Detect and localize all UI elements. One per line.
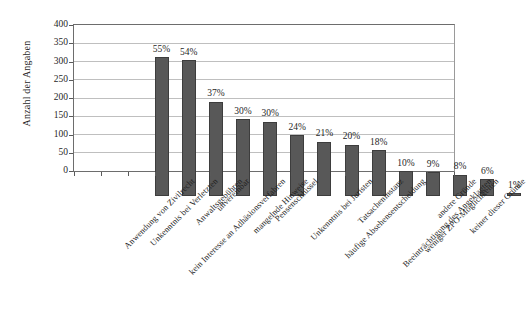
gridline [74, 43, 454, 44]
bar-value-label: 30% [261, 109, 278, 119]
bar-slot: 30% [229, 50, 256, 196]
y-tick-label: 100 [28, 130, 68, 140]
bar-value-label: 37% [207, 89, 224, 99]
bar-value-label: 24% [289, 123, 306, 133]
y-tick-label: 250 [28, 75, 68, 85]
bar-value-label: 20% [343, 132, 360, 142]
bar-slot: 6% [474, 50, 501, 196]
y-tick-label: 150 [28, 111, 68, 121]
bar-slot: 55% [148, 50, 175, 196]
bar-value-label: 30% [234, 107, 251, 117]
y-tick-label: 400 [28, 20, 68, 30]
y-tick-label: 200 [28, 93, 68, 103]
bar-slot: 8% [447, 50, 474, 196]
y-tick-label: 300 [28, 57, 68, 67]
bar-value-label: 8% [454, 162, 467, 172]
bar-slot: 24% [284, 50, 311, 196]
bar-value-label: 9% [427, 160, 440, 170]
bar-slot: 18% [365, 50, 392, 196]
bar-value-label: 55% [153, 45, 170, 55]
y-tick-label: 350 [28, 38, 68, 48]
bar-slot: 20% [338, 50, 365, 196]
y-tick-label: 0 [28, 166, 68, 176]
bar-slot: 10% [392, 50, 419, 196]
bar-value-label: 10% [397, 159, 414, 169]
plot-area: 55%54%37%30%30%24%21%20%18%10%9%8%6%1% [73, 24, 455, 172]
bar-value-label: 54% [180, 48, 197, 58]
bar-value-label: 21% [316, 129, 333, 139]
bar-slot: 21% [311, 50, 338, 196]
bar-slot: 30% [257, 50, 284, 196]
bar-slot: 1% [501, 50, 528, 196]
bar-slot: 37% [202, 50, 229, 196]
y-tick-label: 50 [28, 148, 68, 158]
bar-value-label: 18% [370, 138, 387, 148]
bar-slot: 54% [175, 50, 202, 196]
bar-slot: 9% [419, 50, 446, 196]
x-axis-category-labels: Anwendung von ZivilrechtUnkenntnis bei V… [0, 176, 467, 306]
bar-value-label: 6% [481, 167, 494, 177]
bars-layer: 55%54%37%30%30%24%21%20%18%10%9%8%6%1% [148, 50, 528, 196]
